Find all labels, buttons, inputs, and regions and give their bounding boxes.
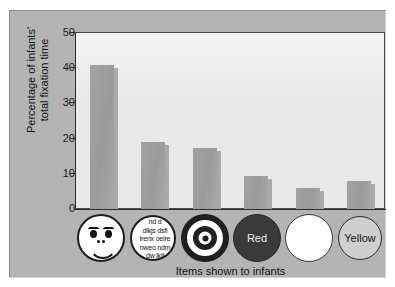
y-tick-0: 0: [10, 203, 75, 214]
smiley-mouth: [89, 242, 117, 259]
category-icon-face: [75, 212, 127, 264]
y-axis-title: Percentage of infants' total fixation ti…: [25, 0, 51, 165]
bar-white: [296, 188, 320, 209]
chart-panel: 50 40 30 20 10 0 Percentage of infants' …: [9, 10, 386, 278]
bullseye-icon: [181, 214, 229, 262]
bar-bullseye: [193, 148, 217, 209]
red-disc-icon: Red: [233, 214, 281, 262]
category-icon-bullseye: [179, 212, 231, 264]
white-disc-icon: [285, 214, 333, 262]
category-icon-white: [283, 212, 335, 264]
smiley-eye-right: [105, 230, 112, 238]
category-icon-print: nd d dlkjs dsfl irenx oeire nweo ndm dw …: [127, 212, 179, 264]
bar-series: [76, 33, 385, 209]
smiley-eye-left: [90, 230, 97, 238]
newsprint-line-2: dlkjs dsfl: [130, 227, 176, 236]
y-tick-mark-40: [69, 67, 75, 68]
y-tick-10: 10: [10, 168, 75, 179]
y-tick-mark-10: [69, 173, 75, 174]
y-axis-title-line2: total fixation time: [38, 0, 51, 165]
newsprint-icon: nd d dlkjs dsfl irenx oeire nweo ndm dw …: [130, 215, 176, 261]
bar-print: [141, 142, 165, 209]
bar-red: [244, 176, 268, 209]
newsprint-line-4: nweo ndm: [130, 244, 176, 253]
bullseye-center: [202, 235, 208, 241]
y-tick-mark-50: [69, 32, 75, 33]
red-disc-label: Red: [234, 232, 280, 244]
smiley-face-icon: [77, 214, 125, 262]
y-axis-title-line1: Percentage of infants': [25, 0, 38, 165]
y-tick-mark-30: [69, 102, 75, 103]
newsprint-line-1: nd d: [130, 218, 176, 227]
bullseye-ring-4: [199, 232, 212, 245]
bullseye-ring-2: [187, 220, 223, 256]
category-icon-red: Red: [231, 212, 283, 264]
x-axis-title: Items shown to infants: [75, 265, 386, 277]
newsprint-line-5: dw lkjt: [130, 252, 176, 261]
bar-yellow: [347, 181, 371, 209]
x-axis-line: [75, 209, 386, 210]
bar-face: [90, 65, 114, 209]
chart-figure: 50 40 30 20 10 0 Percentage of infants' …: [0, 0, 395, 287]
newsprint-line-3: irenx oeire: [130, 235, 176, 244]
newsprint-text: nd d dlkjs dsfl irenx oeire nweo ndm dw …: [130, 218, 176, 261]
category-icon-yellow: Yellow: [334, 212, 386, 264]
bullseye-ring-3: [193, 226, 217, 250]
y-tick-label-0: 0: [51, 203, 75, 214]
category-icon-row: nd d dlkjs dsfl irenx oeire nweo ndm dw …: [75, 212, 386, 265]
yellow-disc-icon: Yellow: [338, 216, 382, 260]
y-tick-mark-20: [69, 138, 75, 139]
yellow-disc-label: Yellow: [339, 232, 381, 244]
